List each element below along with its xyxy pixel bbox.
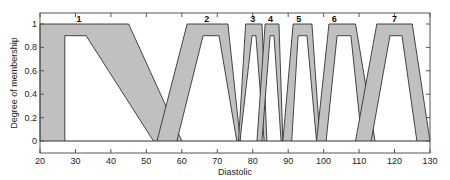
x-tick-label: 60 — [177, 156, 187, 166]
x-tick-label: 70 — [212, 156, 222, 166]
y-tick-label: 0.2 — [24, 113, 37, 123]
x-tick-label: 20 — [35, 156, 45, 166]
y-tick-label: 1 — [32, 19, 37, 29]
x-tick-label: 50 — [141, 156, 151, 166]
set-label-1: 1 — [76, 14, 81, 24]
x-tick-label: 110 — [352, 156, 366, 166]
membership-chart: 2030405060708090100110120130 00.20.40.60… — [0, 0, 450, 180]
x-tick-label: 130 — [422, 156, 437, 166]
x-tick-label: 80 — [248, 156, 258, 166]
y-axis-label: Degree of membership — [9, 37, 19, 129]
x-tick-label: 120 — [387, 156, 402, 166]
y-tick-label: 0 — [32, 136, 37, 146]
set-label-5: 5 — [296, 14, 301, 24]
y-tick-label: 0.8 — [24, 42, 37, 52]
set-label-2: 2 — [204, 14, 209, 24]
x-tick-label: 30 — [70, 156, 80, 166]
y-tick-label: 0.6 — [24, 66, 37, 76]
x-axis-label: Diastolic — [218, 167, 253, 177]
x-tick-label: 100 — [316, 156, 331, 166]
set-label-6: 6 — [332, 14, 337, 24]
set-label-4: 4 — [268, 14, 273, 24]
set-label-3: 3 — [250, 14, 255, 24]
x-tick-label: 90 — [283, 156, 293, 166]
x-tick-label: 40 — [106, 156, 116, 166]
y-tick-label: 0.4 — [24, 89, 37, 99]
set-label-7: 7 — [392, 14, 397, 24]
